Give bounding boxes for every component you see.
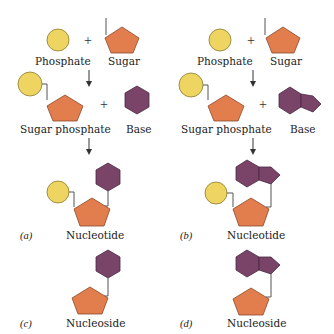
sugar-phosphate-label: Sugar phosphate — [20, 123, 111, 135]
bond-line — [42, 84, 47, 100]
bond-line — [227, 193, 233, 207]
panel-label-d: (d) — [180, 318, 193, 330]
sugar-icon — [72, 287, 108, 314]
sugar-icon — [74, 198, 110, 226]
panel-d: (d) Nucleoside — [180, 250, 286, 330]
bond-line — [102, 191, 108, 206]
phosphate-icon — [47, 29, 69, 51]
nucleoside-label: Nucleoside — [227, 317, 286, 329]
panel-a: + Phosphate Sugar + Sugar phosphate Base… — [18, 18, 152, 242]
base-double-ring-icon — [279, 87, 321, 114]
plus-sign: + — [84, 33, 92, 48]
nucleotide-label: Nucleotide — [227, 229, 285, 241]
sugar-icon — [233, 198, 269, 226]
phosphate-icon — [47, 181, 69, 203]
base-label: Base — [126, 123, 152, 135]
sugar-icon — [266, 27, 300, 53]
base-double-ring-icon — [236, 160, 280, 187]
plus-sign: + — [259, 97, 267, 112]
base-hexagon-icon — [96, 163, 120, 191]
bond-line — [69, 192, 74, 207]
panel-label-a: (a) — [20, 230, 33, 242]
panel-b: + Phosphate Sugar + Sugar phosphate Base… — [179, 18, 321, 242]
sugar-icon — [47, 95, 83, 121]
plus-sign: + — [247, 33, 255, 48]
sugar-label: Sugar — [270, 55, 303, 67]
plus-sign: + — [100, 97, 108, 112]
phosphate-label: Phosphate — [35, 55, 91, 67]
base-double-ring-icon — [236, 250, 280, 277]
base-label: Base — [290, 123, 316, 135]
phosphate-icon — [205, 182, 227, 204]
bond-line — [266, 184, 271, 207]
phosphate-icon — [209, 29, 231, 51]
bond-line — [203, 85, 208, 100]
bond-line — [104, 278, 108, 296]
phosphate-label: Phosphate — [197, 55, 253, 67]
panel-label-b: (b) — [180, 230, 193, 242]
base-hexagon-icon — [125, 86, 149, 114]
panel-c: (c) Nucleoside — [20, 250, 125, 330]
sugar-icon — [105, 27, 139, 53]
sugar-label: Sugar — [108, 55, 141, 67]
phosphate-icon — [18, 72, 42, 96]
panel-label-c: (c) — [20, 318, 32, 330]
nucleoside-label: Nucleoside — [66, 317, 125, 329]
sugar-icon — [208, 95, 244, 121]
base-hexagon-icon — [96, 250, 120, 278]
nucleotide-diagram: + Phosphate Sugar + Sugar phosphate Base… — [0, 0, 334, 334]
sugar-phosphate-label: Sugar phosphate — [181, 123, 272, 135]
nucleotide-label: Nucleotide — [66, 229, 124, 241]
bond-line — [266, 274, 271, 297]
phosphate-icon — [179, 73, 203, 97]
sugar-icon — [233, 288, 269, 315]
